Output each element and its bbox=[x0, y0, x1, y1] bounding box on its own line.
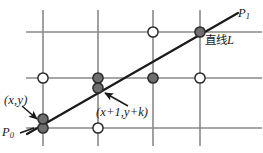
line-dot-next bbox=[93, 83, 103, 93]
line-dot-p0 bbox=[38, 114, 48, 124]
grid-dot-open-r3c2 bbox=[93, 123, 103, 133]
label-p0-letter: P bbox=[2, 125, 10, 139]
grid-dot-filled-r2c3 bbox=[148, 73, 158, 83]
grid-dot-open-r1c3 bbox=[148, 27, 158, 37]
grid-dot-filled-r2c2 bbox=[93, 73, 103, 83]
figure-canvas bbox=[0, 0, 263, 153]
label-line-L-cjk: 直线 bbox=[205, 33, 227, 47]
label-next-point: (x+1,y+k) bbox=[96, 106, 148, 119]
arrow-to-p0-point bbox=[22, 106, 37, 119]
grid-dot-open-r2c1 bbox=[38, 73, 48, 83]
label-p1-letter: P bbox=[238, 6, 246, 20]
label-p1: P1 bbox=[238, 7, 250, 20]
grid-dot-open-r2c4 bbox=[195, 73, 205, 83]
label-p0: P0 bbox=[2, 126, 14, 139]
grid-dot-filled-r1c4 bbox=[195, 27, 205, 37]
label-line-L-latin: L bbox=[227, 33, 234, 47]
label-current-point: (x,y) bbox=[4, 94, 28, 107]
label-p0-subscript: 0 bbox=[10, 130, 14, 140]
line-drawing-figure: (x,y) P0 P1 (x+1,y+k) 直线L bbox=[0, 0, 263, 153]
label-p1-subscript: 1 bbox=[246, 11, 250, 21]
label-line-L: 直线L bbox=[205, 34, 234, 47]
